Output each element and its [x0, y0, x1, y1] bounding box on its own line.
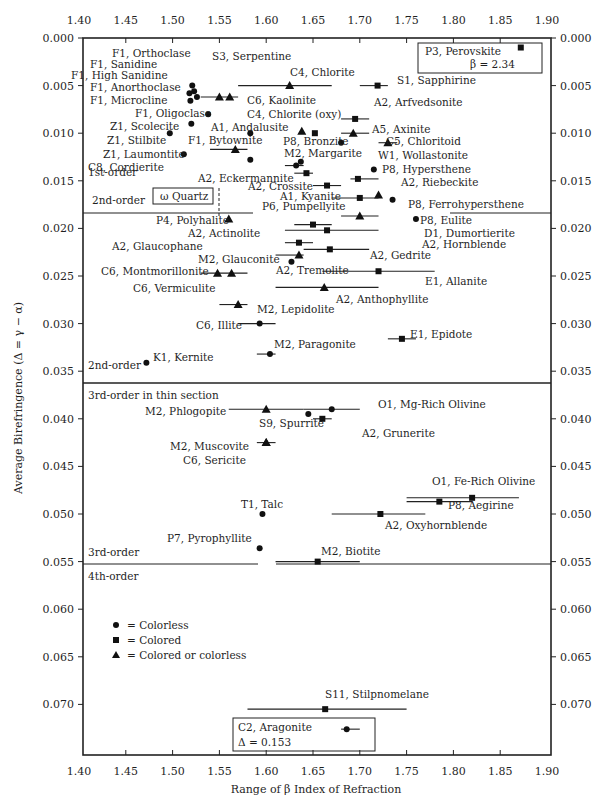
x-tick-label-bottom: 1.70 [348, 765, 373, 778]
data-point: F1, Oligoclase [135, 107, 211, 119]
point-label: E1, Allanite [425, 275, 487, 287]
point-label: C6, Illite [196, 319, 242, 331]
point-label: S11, Stilpnomelane [325, 688, 429, 700]
point-label: K1, Kernite [153, 351, 214, 363]
triangle-marker-icon [374, 191, 383, 199]
legend-colored: = Colored [127, 634, 181, 646]
square-marker-icon [377, 511, 383, 517]
point-label: T1, Talc [241, 498, 283, 510]
square-marker-icon [357, 195, 363, 201]
data-point: A2, Arfvedsonite [341, 96, 462, 122]
data-point: A2, Glaucophane [111, 240, 313, 252]
aragonite-note: Δ = 0.153 [238, 736, 291, 748]
data-point: A2, Oxyhornblende [332, 511, 488, 531]
x-tick-label-bottom: 1.80 [441, 765, 466, 778]
legend-triangle-icon [112, 651, 120, 658]
point-label: A2, Gedrite [369, 249, 431, 261]
y-tick-label-left: 0.025 [43, 270, 75, 283]
circle-marker-icon [167, 130, 173, 136]
y-tick-label-right: 0.065 [560, 651, 592, 664]
data-point: T1, Talc [241, 498, 283, 517]
data-point: C6, Illite [196, 319, 276, 331]
data-point: M2, Muscovite [170, 438, 276, 452]
data-point: P8, Hypersthene [371, 163, 471, 175]
data-point: P4, Polyhalite [156, 214, 233, 226]
data-point: Z1, Scolecite [110, 120, 194, 132]
data-point: M2, Paragonite [257, 338, 356, 357]
data-point: M2, Glauconite [198, 251, 304, 265]
square-marker-icon [436, 499, 442, 505]
y-tick-label-left: 0.035 [43, 365, 75, 378]
y-tick-label-right: 0.005 [560, 80, 592, 93]
legend: = Colorless = Colored = Colored or color… [112, 619, 246, 661]
legend-colorless: = Colorless [127, 619, 189, 631]
x-tick-label-top: 1.50 [160, 14, 185, 27]
x-tick-label-bottom: 1.50 [160, 765, 185, 778]
data-point: A1, Andalusite [210, 121, 306, 135]
y-tick-label-left: 0.015 [43, 175, 75, 188]
x-tick-label-top: 1.65 [301, 14, 326, 27]
x-tick-label-top: 1.75 [394, 14, 419, 27]
point-label: Z1, Scolecite [110, 120, 179, 132]
data-point: P8, Aegirine [407, 499, 514, 511]
x-tick-label-top: 1.60 [254, 14, 279, 27]
circle-marker-icon [188, 121, 194, 127]
point-label: C6, Sericite [183, 454, 246, 466]
data-point: K1, Kernite [143, 351, 213, 366]
data-point: S1, Sapphirine [360, 74, 476, 89]
triangle-marker-icon [297, 127, 306, 135]
data-point: F1, Bytownite [188, 134, 262, 153]
data-point: E1, Allanite [322, 268, 487, 287]
y-tick-label-left: 0.060 [43, 603, 75, 616]
square-marker-icon [315, 559, 321, 565]
y-tick-label-right: 0.015 [560, 175, 592, 188]
point-label: M2, Muscovite [170, 440, 249, 452]
y-tick-label-left: 0.055 [43, 556, 75, 569]
x-tick-label-bottom: 1.65 [301, 765, 326, 778]
circle-marker-icon [298, 159, 304, 165]
data-point: A2, Riebeckite [350, 176, 478, 188]
square-marker-icon [352, 116, 358, 122]
aragonite-label: C2, Aragonite [238, 721, 312, 733]
square-marker-icon [518, 45, 524, 51]
legend-circle-icon [113, 622, 119, 628]
square-marker-icon [375, 83, 381, 89]
circle-marker-icon [267, 351, 273, 357]
x-tick-label-bottom: 1.60 [254, 765, 279, 778]
point-label: P8, Ferrohypersthene [408, 198, 524, 210]
data-point: S3, Serpentine [201, 50, 292, 101]
y-tick-label-left: 0.005 [43, 80, 75, 93]
y-axis-title: Average Birefringence (Δ = γ − α) [12, 302, 25, 495]
data-point: A2, Gedrite [304, 246, 431, 261]
point-label: P4, Polyhalite [156, 214, 229, 226]
data-point: M2, Lepidolite [219, 300, 334, 315]
data-point: C6, Kaolinite [225, 93, 316, 106]
point-label: C5, Chloritoid [386, 135, 461, 147]
y-tick-label-left: 0.010 [43, 127, 75, 140]
perovskite-note: β = 2.34 [470, 58, 515, 70]
point-label: C6, Kaolinite [247, 94, 316, 106]
point-label: C6, Montmorillonite [101, 265, 209, 277]
point-label: F1, Microcline [90, 94, 168, 106]
y-tick-label-right: 0.035 [560, 365, 592, 378]
data-point: A2, Grunerite [313, 416, 435, 439]
perovskite-label: P3, Perovskite [425, 45, 501, 57]
point-label: F1, High Sanidine [71, 69, 168, 81]
square-marker-icon [322, 706, 328, 712]
circle-marker-icon [390, 197, 396, 203]
legend-square-icon [113, 637, 119, 643]
order-label-4th: 4th-order [88, 570, 139, 582]
square-marker-icon [324, 227, 330, 233]
data-point: A2, Tremolite [275, 259, 349, 276]
x-tick-label-bottom: 1.75 [394, 765, 419, 778]
point-label: Z1, Laumontite [103, 148, 185, 160]
circle-marker-icon [293, 163, 299, 169]
square-marker-icon [355, 176, 361, 182]
data-point: Z1, Laumontite [103, 148, 187, 160]
point-label: P8, Bronzite [283, 135, 349, 147]
y-tick-label-right: 0.025 [560, 270, 592, 283]
point-label: F1, Oligoclase [135, 107, 211, 119]
circle-marker-icon [257, 545, 263, 551]
y-tick-label-left: 0.065 [43, 651, 75, 664]
point-label: O1, Mg-Rich Olivine [378, 398, 486, 410]
